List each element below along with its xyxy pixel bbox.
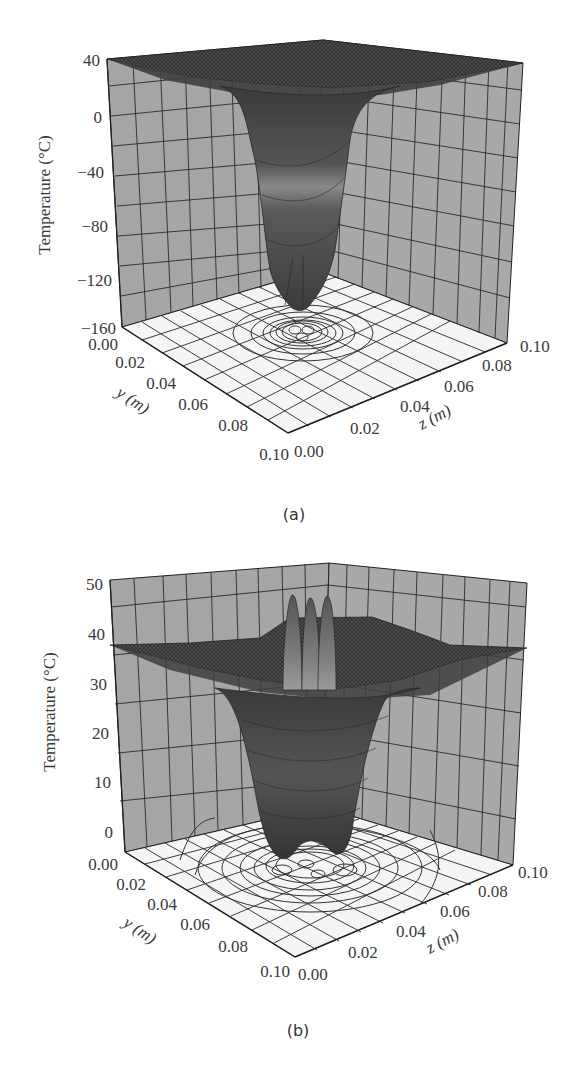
z-tick-b-3: 0.06 — [440, 902, 470, 921]
temperature-axis-label-a: Temperature (°C) — [35, 135, 54, 254]
t-tick-a-3: −80 — [81, 217, 108, 236]
panel-b: 50 40 30 20 10 0 Temperature (°C) 0.00 0… — [0, 530, 588, 1070]
z-axis-label-b: z (m) — [422, 925, 463, 959]
z-tick-a-1: 0.02 — [350, 419, 380, 438]
y-tick-a-4: 0.08 — [218, 416, 248, 435]
z-tick-b-2: 0.04 — [396, 922, 426, 941]
temperature-axis-label-b: Temperature (°C) — [40, 652, 59, 771]
t-tick-b-4: 10 — [94, 773, 111, 792]
z-tick-a-0: 0.00 — [294, 442, 324, 461]
y-tick-a-0: 0.00 — [88, 335, 118, 354]
z-tick-a-4: 0.08 — [482, 356, 512, 375]
y-tick-b-3: 0.06 — [180, 915, 210, 934]
y-axis-label-b: y (m) — [118, 912, 160, 948]
y-tick-a-5: 0.10 — [259, 445, 289, 464]
y-tick-a-3: 0.06 — [178, 395, 208, 414]
surface-plot-b: 50 40 30 20 10 0 Temperature (°C) 0.00 0… — [0, 530, 588, 1070]
y-tick-b-5: 0.10 — [260, 962, 290, 981]
t-tick-b-1: 40 — [88, 625, 105, 644]
z-tick-b-0: 0.00 — [298, 965, 328, 984]
t-tick-b-0: 50 — [86, 575, 103, 594]
t-tick-a-0: 40 — [83, 51, 100, 70]
caption-b: (b) — [287, 1021, 310, 1040]
y-tick-b-0: 0.00 — [88, 855, 118, 874]
y-tick-b-1: 0.02 — [116, 875, 146, 894]
z-tick-b-1: 0.02 — [348, 943, 378, 962]
panel-a: 40 0 −40 −80 −120 −160 Temperature (°C) … — [0, 0, 588, 530]
z-tick-b-5: 0.10 — [518, 863, 548, 882]
t-tick-b-5: 0 — [105, 823, 114, 842]
z-tick-a-3: 0.06 — [444, 377, 474, 396]
y-tick-a-1: 0.02 — [115, 353, 145, 372]
z-tick-b-4: 0.08 — [478, 882, 508, 901]
caption-a: (a) — [283, 505, 305, 524]
surface-plot-a: 40 0 −40 −80 −120 −160 Temperature (°C) … — [0, 0, 588, 530]
peaks-b — [283, 595, 336, 690]
t-tick-b-2: 30 — [90, 675, 107, 694]
y-tick-b-4: 0.08 — [218, 937, 248, 956]
t-tick-b-3: 20 — [92, 724, 109, 743]
z-tick-a-5: 0.10 — [520, 337, 550, 356]
y-tick-a-2: 0.04 — [146, 374, 176, 393]
t-tick-a-4: −120 — [77, 271, 112, 290]
y-tick-b-2: 0.04 — [147, 895, 177, 914]
t-tick-a-2: −40 — [77, 163, 104, 182]
t-tick-a-1: 0 — [94, 108, 103, 127]
